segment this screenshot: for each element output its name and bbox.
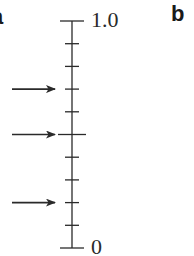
scale-bottom-label: 0 xyxy=(91,236,102,256)
vertical-scale xyxy=(0,0,194,256)
scale-top-label: 1.0 xyxy=(91,9,119,31)
